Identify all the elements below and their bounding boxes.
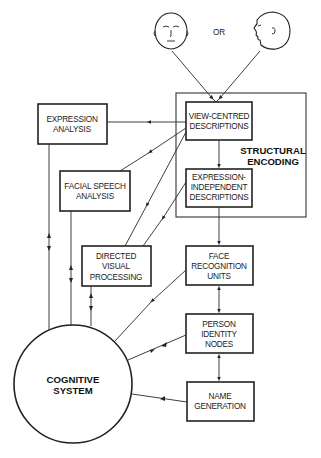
svg-text:ANALYSIS: ANALYSIS [76,192,115,201]
edge-fru-to-cognitive [152,270,186,301]
edge-vc-to-facial-speech [150,128,186,152]
svg-text:COGNITIVE: COGNITIVE [47,374,100,385]
cognitive-system-circle: COGNITIVE SYSTEM [14,325,132,443]
edge-ng-to-cognitive [132,394,187,402]
face-recognition-model-diagram: OR STRUCTURAL ENCODING VIEW-CENTRED DESC… [0,0,321,458]
svg-text:DIRECTED: DIRECTED [96,252,137,261]
svg-text:GENERATION: GENERATION [194,402,246,411]
svg-text:FACE: FACE [209,252,230,261]
svg-text:EXPRESSION-: EXPRESSION- [192,173,246,182]
facial-speech-analysis-box: FACIAL SPEECH ANALYSIS [60,171,130,211]
svg-text:IDENTITY: IDENTITY [201,330,237,339]
front-face-icon [154,13,188,49]
expression-analysis-box: EXPRESSION ANALYSIS [38,104,107,144]
svg-text:NODES: NODES [205,340,234,349]
profile-face-edge [220,51,260,98]
svg-text:VISUAL: VISUAL [102,262,131,271]
svg-text:DESCRIPTIONS: DESCRIPTIONS [189,193,249,202]
svg-text:PROCESSING: PROCESSING [90,273,143,282]
svg-text:DESCRIPTIONS: DESCRIPTIONS [189,122,249,131]
edge-pin-cognitive [128,335,186,360]
profile-face-icon [254,12,290,49]
svg-text:VIEW-CENTRED: VIEW-CENTRED [189,112,250,121]
svg-text:NAME: NAME [209,392,233,401]
svg-text:PERSON: PERSON [202,320,236,329]
name-generation-box: NAME GENERATION [187,382,254,421]
svg-text:FACIAL SPEECH: FACIAL SPEECH [64,182,126,191]
edge-vc-to-directed [147,132,186,205]
face-recognition-units-box: FACE RECOGNITION UNITS [186,246,253,285]
or-label: OR [213,28,225,37]
svg-text:SYSTEM: SYSTEM [53,385,92,396]
structural-encoding-title-2: ENCODING [247,156,299,167]
front-face-edge [172,51,212,98]
svg-text:UNITS: UNITS [207,272,231,281]
edge-ei-to-directed [163,182,186,218]
structural-encoding-title: STRUCTURAL [240,145,306,156]
expression-independent-descriptions-box: EXPRESSION- INDEPENDENT DESCRIPTIONS [186,169,252,207]
person-identity-nodes-box: PERSON IDENTITY NODES [186,314,253,353]
svg-text:RECOGNITION: RECOGNITION [191,262,247,271]
svg-text:ANALYSIS: ANALYSIS [53,125,92,134]
svg-text:INDEPENDENT: INDEPENDENT [191,183,248,192]
view-centred-descriptions-box: VIEW-CENTRED DESCRIPTIONS [186,102,252,140]
svg-text:EXPRESSION: EXPRESSION [46,115,98,124]
directed-visual-processing-box: DIRECTED VISUAL PROCESSING [82,246,151,286]
